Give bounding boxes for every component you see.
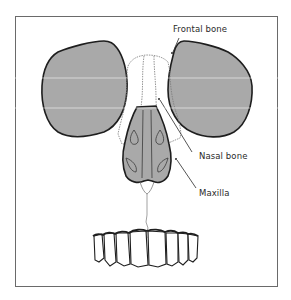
label-maxilla: Maxilla xyxy=(199,188,230,198)
maxilla-leader-line xyxy=(177,160,196,188)
nose-tip-outline xyxy=(140,182,154,194)
label-frontal-bone: Frontal bone xyxy=(173,24,227,34)
skull-illustration xyxy=(0,0,291,300)
right-orbit-shape xyxy=(168,41,252,137)
nasal-leader-dot xyxy=(158,98,160,100)
label-nasal-bone: Nasal bone xyxy=(199,151,247,161)
nose-shape xyxy=(123,106,171,182)
diagram-canvas: Frontal bone Nasal bone Maxilla xyxy=(0,0,291,300)
frontal-leader-dot xyxy=(171,52,173,54)
upper-teeth xyxy=(94,231,198,267)
maxilla-leader-dot xyxy=(175,158,177,160)
left-orbit-shape xyxy=(42,41,127,137)
